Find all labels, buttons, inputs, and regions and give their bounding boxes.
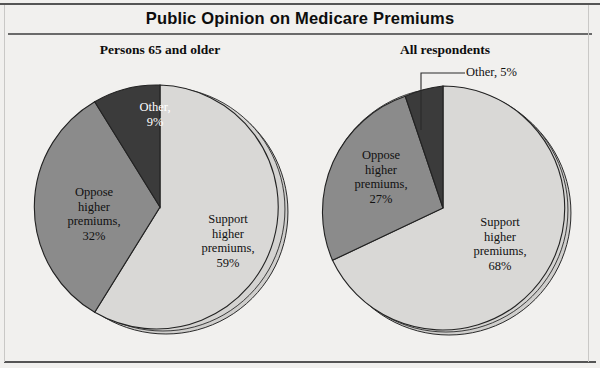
panel-subtitle-all: All respondents: [345, 42, 545, 58]
left-border: [4, 5, 5, 362]
top-rule: [0, 3, 600, 5]
title-rule: [8, 33, 592, 35]
page-title: Public Opinion on Medicare Premiums: [0, 9, 600, 28]
pie-left-label-other: Other, 9%: [120, 100, 190, 129]
pie-left-label-oppose: Oppose higher premiums, 32%: [48, 185, 140, 243]
pie-right-label-other: Other, 5%: [466, 65, 556, 80]
panel-subtitle-elderly: Persons 65 and older: [60, 42, 260, 58]
figure-panel: Public Opinion on Medicare Premiums Pers…: [0, 0, 600, 368]
pie-right-label-support: Support higher premiums, 68%: [452, 215, 548, 273]
pie-right-label-oppose: Oppose higher premiums, 27%: [333, 148, 429, 206]
bottom-rule: [4, 361, 596, 363]
pie-left-label-support: Support higher premiums, 59%: [182, 212, 274, 270]
